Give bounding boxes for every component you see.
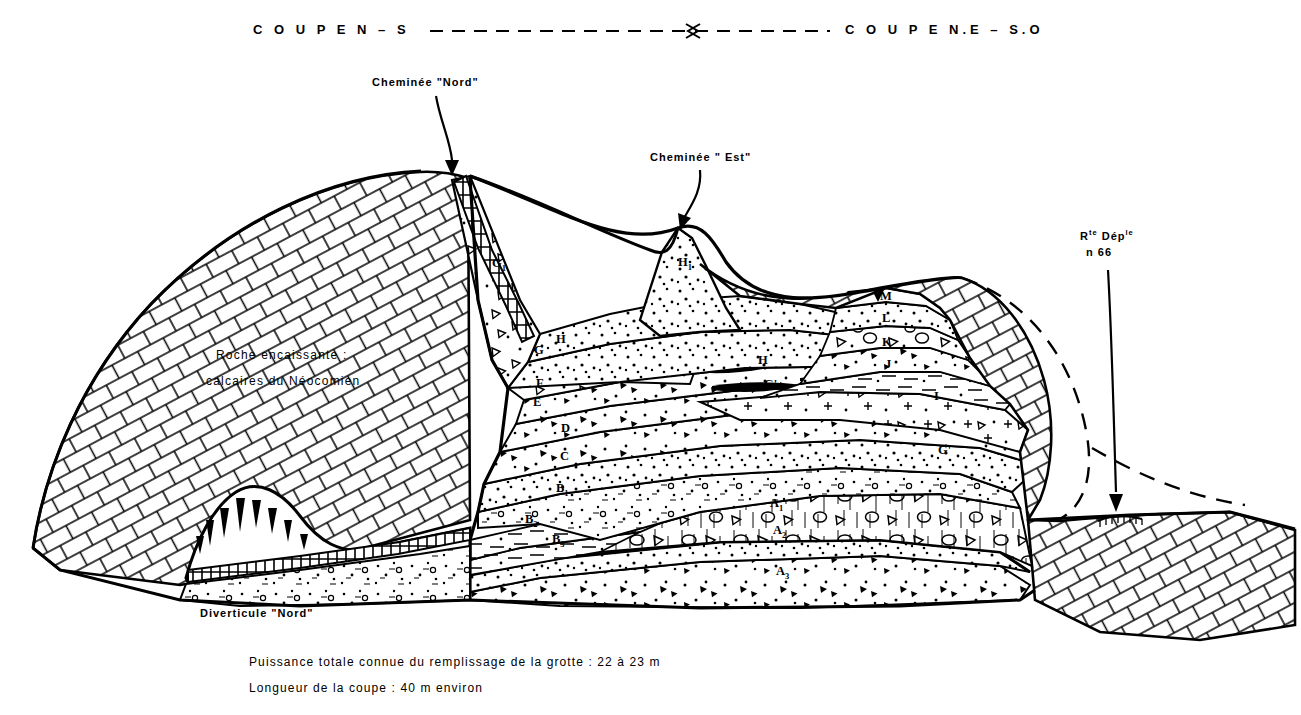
figure-canvas: C O U P E N – S C O U P E N.E – S.O xyxy=(0,0,1301,715)
caption-line-2: Longueur de la coupe : 40 m environ xyxy=(249,681,483,695)
label-cheminee-est: Cheminée " Est" xyxy=(650,151,751,163)
route-prefix: R xyxy=(1080,230,1089,242)
unit-label-Gprime-right: G' xyxy=(938,443,951,457)
bedrock-label-line1: Roche encaissante : xyxy=(216,348,348,362)
double-headed-dashed-arrow-icon xyxy=(430,24,830,38)
unit-label-G: G xyxy=(534,343,544,357)
unit-label-Gprime-center: G' xyxy=(764,377,777,391)
section-title-left: C O U P E N – S xyxy=(253,22,410,37)
unit-label-H-left: H xyxy=(556,332,566,346)
route-mid: Dép xyxy=(1098,230,1126,242)
unit-label-K: K xyxy=(882,335,892,349)
unit-label-D: D xyxy=(561,421,570,435)
caption-line-1: Puissance totale connue du remplissage d… xyxy=(249,655,661,669)
bedrock-right-block xyxy=(1028,512,1295,640)
unit-label-C: C xyxy=(560,449,569,463)
label-route-departementale: Rte Déple n 66 xyxy=(1080,228,1134,258)
unit-label-H: H xyxy=(758,353,768,367)
unit-label-M: M xyxy=(880,289,892,303)
unit-label-E: E xyxy=(533,395,541,409)
unit-label-I: I xyxy=(934,389,939,403)
section-title-right: C O U P E N.E – S.O xyxy=(845,22,1044,37)
svg-text:Rte Déple: Rte Déple xyxy=(1080,228,1134,242)
label-diverticule-nord: Diverticule "Nord" xyxy=(200,607,313,619)
route-sup-2: le xyxy=(1125,228,1133,237)
route-sup-1: te xyxy=(1089,228,1098,237)
unit-label-F: F xyxy=(536,376,544,390)
label-cheminee-nord: Cheminée "Nord" xyxy=(372,76,479,88)
cross-section-drawing: C O U P E N – S C O U P E N.E – S.O xyxy=(0,0,1301,715)
route-number: n 66 xyxy=(1086,246,1112,258)
unit-label-J: J xyxy=(885,357,891,371)
bedrock-label-line2: calcaires du Néocomien xyxy=(206,374,360,388)
unit-label-L: L xyxy=(882,311,890,325)
cave-infill-sequence xyxy=(452,176,1048,608)
